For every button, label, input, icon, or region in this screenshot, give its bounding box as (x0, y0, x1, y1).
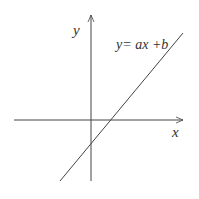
x-axis-label: x (171, 124, 179, 140)
coordinate-plane: y x y= ax +b (0, 0, 199, 199)
y-axis-label: y (71, 22, 80, 38)
diagram-canvas: y x y= ax +b (0, 0, 199, 199)
function-line (60, 33, 183, 181)
equation-label: y= ax +b (114, 37, 168, 52)
